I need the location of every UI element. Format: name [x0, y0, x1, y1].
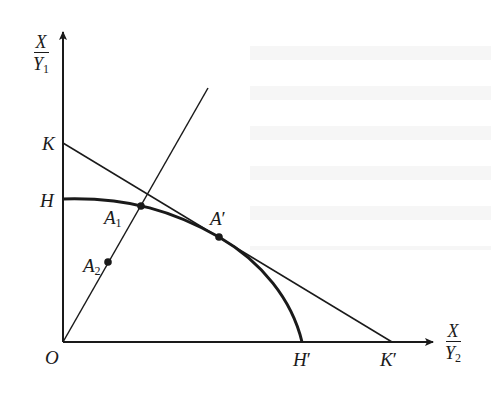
label-K: K	[42, 134, 55, 153]
label-K-prime: K′	[380, 350, 397, 369]
diagram-canvas: X Y1 X Y2 K H O A1 A2 A′ H′ K′	[0, 0, 491, 397]
x-axis-label: X Y2	[445, 322, 461, 364]
x-axis-denominator: Y2	[445, 342, 461, 364]
label-A1: A1	[104, 208, 122, 229]
label-A-prime: A′	[210, 209, 226, 228]
label-H-prime: H′	[293, 350, 311, 369]
ray-line	[63, 88, 208, 342]
point-A2	[104, 258, 112, 266]
label-H: H	[40, 191, 54, 210]
x-axis-numerator: X	[446, 322, 461, 342]
diagram-svg	[0, 0, 491, 397]
label-A2: A2	[83, 256, 101, 277]
point-A-prime	[215, 233, 223, 241]
y-axis-denominator: Y1	[33, 53, 49, 75]
label-origin: O	[45, 348, 59, 367]
y-axis-label: X Y1	[33, 33, 49, 75]
point-A1	[137, 202, 145, 210]
y-axis-numerator: X	[34, 33, 49, 53]
